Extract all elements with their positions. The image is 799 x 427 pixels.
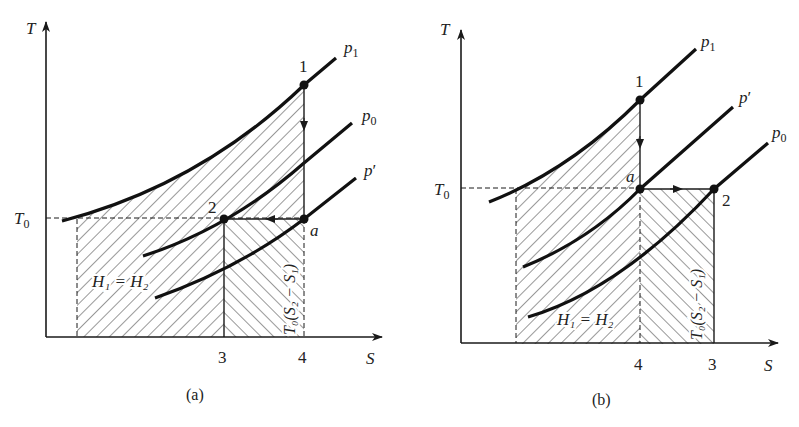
point-a	[300, 215, 309, 224]
panel-a: T S T0 p1 p0 p′ 1 2 a 3 4 H₁ = H₂ T₀(S₂ …	[14, 19, 382, 404]
point-a-label: a	[310, 221, 319, 240]
point-2-label: 2	[722, 191, 731, 210]
isobar-p0-label: p0	[771, 123, 787, 145]
point-2	[220, 215, 229, 224]
point-a-label: a	[626, 167, 635, 186]
t0-label: T0	[434, 180, 449, 202]
area-label-t0-ds: T₀(S₂ − S₁)	[688, 269, 706, 340]
point-2	[710, 185, 719, 194]
point-1-label: 1	[299, 57, 308, 76]
hatch-area-upper	[516, 100, 640, 189]
area-label-h1-h2: H₁ = H₂	[91, 272, 148, 291]
point-1	[636, 96, 645, 105]
point-1	[300, 81, 309, 90]
t0-label: T0	[14, 209, 29, 231]
caption-a: (a)	[186, 386, 204, 404]
point-1-label: 1	[635, 72, 644, 91]
area-label-h1-h2: H₁ = H₂	[556, 310, 613, 329]
isobar-p1-label: p1	[700, 32, 716, 54]
s-axis-label: S	[366, 349, 375, 368]
x-tick-4: 4	[298, 348, 307, 367]
point-a	[636, 185, 645, 194]
x-tick-3: 3	[218, 348, 227, 367]
t-axis-label: T	[26, 19, 37, 38]
isobar-pprime-label: p′	[738, 88, 751, 107]
area-label-t0-ds: T₀(S₂ − S₁)	[281, 264, 299, 335]
t-axis-label: T	[440, 20, 451, 39]
caption-b: (b)	[592, 391, 611, 409]
isobar-pprime-label: p′	[363, 161, 376, 180]
s-axis-label: S	[764, 356, 773, 375]
x-tick-3: 3	[708, 355, 717, 374]
isobar-p0-label: p0	[361, 106, 377, 128]
point-2-label: 2	[208, 198, 217, 217]
hatch-area-upper	[75, 85, 304, 219]
isobar-p1-label: p1	[343, 38, 359, 60]
panel-b: T S T0 p1 p′ p0 1 2 a 4 3 H₁ = H₂ T₀(S₂ …	[434, 20, 787, 409]
ts-diagram-figure: T S T0 p1 p0 p′ 1 2 a 3 4 H₁ = H₂ T₀(S₂ …	[0, 0, 799, 427]
x-tick-4: 4	[634, 355, 643, 374]
